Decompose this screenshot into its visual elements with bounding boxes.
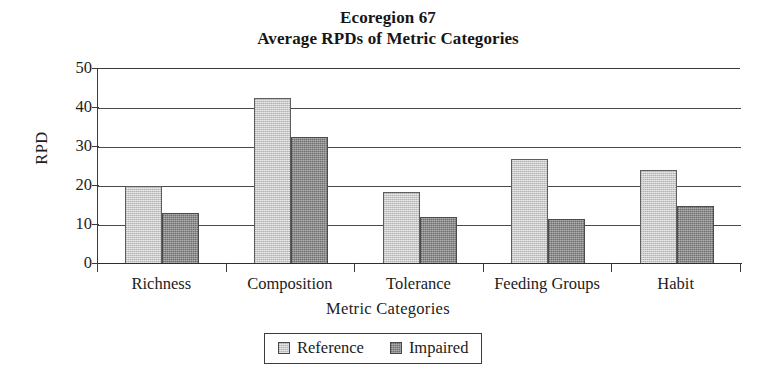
x-axis-tick-mark [226,263,227,272]
bar-habit-impaired [677,206,714,265]
gridline [98,108,741,109]
bar-tolerance-reference [383,192,420,264]
legend-label-impaired: Impaired [409,338,469,358]
gridline [98,147,741,148]
y-axis-tick-label: 30 [58,136,92,156]
x-axis-label-habit: Habit [657,274,694,294]
y-axis-tick-label: 50 [58,58,92,78]
y-axis-tick-label: 0 [58,253,92,273]
x-axis-tick-mark [611,263,612,272]
chart-title-line1: Ecoregion 67 [0,8,776,29]
y-axis-tick-label: 10 [58,214,92,234]
bar-composition-reference [254,98,291,264]
x-axis-label-richness: Richness [132,274,192,294]
bar-richness-reference [125,186,162,264]
legend-entry-impaired[interactable]: Impaired [390,338,469,358]
bar-feeding-groups-impaired [548,219,585,264]
y-axis-tick-label: 40 [58,97,92,117]
legend-label-reference: Reference [297,338,364,358]
x-axis-label-feeding-groups: Feeding Groups [494,274,600,294]
x-axis-line [97,263,742,264]
y-axis-tick-label: 20 [58,175,92,195]
legend-swatch-impaired-icon [390,342,402,354]
x-axis-tick-mark [483,263,484,272]
x-axis-tick-mark [740,263,741,272]
x-axis-tick-mark [97,263,98,272]
x-axis-label-composition: Composition [247,274,332,294]
plot-area [97,68,740,263]
legend-swatch-reference-icon [278,342,290,354]
bar-richness-impaired [162,213,199,264]
x-axis-tick-mark [354,263,355,272]
y-axis-title: RPD [32,88,52,208]
y-axis-tick-labels: 50403020100 [52,0,92,388]
bar-composition-impaired [291,137,328,264]
chart-legend: Reference Impaired [264,333,482,364]
x-axis-title: Metric Categories [0,299,776,319]
x-axis-label-tolerance: Tolerance [386,274,451,294]
bar-feeding-groups-reference [511,159,548,264]
bar-habit-reference [640,170,677,264]
chart-title: Ecoregion 67 Average RPDs of Metric Cate… [0,8,776,49]
bar-tolerance-impaired [420,217,457,264]
legend-entry-reference[interactable]: Reference [278,338,364,358]
chart-title-line2: Average RPDs of Metric Categories [0,29,776,50]
